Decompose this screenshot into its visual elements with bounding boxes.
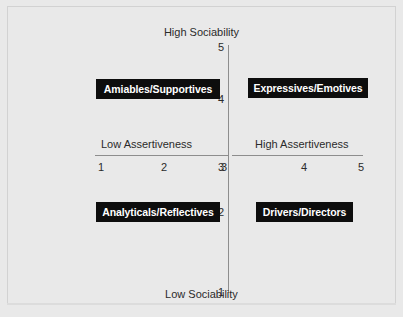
- horizontal-axis-line-right: [232, 155, 363, 156]
- x-tick-label-2: 2: [161, 161, 167, 173]
- y-tick-label-1: 1: [215, 286, 224, 298]
- axis-title-high-sociability: High Sociability: [0, 26, 403, 39]
- x-tick-label-4: 4: [301, 161, 307, 173]
- axis-title-low-assertiveness: Low Assertiveness: [101, 138, 192, 151]
- y-tick-label-5: 5: [215, 41, 224, 53]
- quadrant-label-analyticals-reflectives[interactable]: Analyticals/Reflectives: [96, 202, 220, 222]
- x-tick-label-1: 1: [98, 161, 104, 173]
- vertical-axis-line: [228, 45, 229, 293]
- quadrant-label-drivers-directors[interactable]: Drivers/Directors: [256, 202, 353, 222]
- x-tick-label-3: 3: [221, 161, 227, 173]
- x-tick-label-5: 5: [358, 161, 364, 173]
- axis-title-high-assertiveness: High Assertiveness: [255, 138, 349, 151]
- axis-title-low-sociability: Low Sociability: [0, 288, 403, 301]
- social-styles-quadrant-chart: High Sociability Low Sociability Low Ass…: [0, 0, 403, 317]
- quadrant-label-amiables-supportives[interactable]: Amiables/Supportives: [96, 79, 220, 99]
- horizontal-axis-line-left: [95, 155, 228, 156]
- quadrant-label-expressives-emotives[interactable]: Expressives/Emotives: [248, 78, 368, 98]
